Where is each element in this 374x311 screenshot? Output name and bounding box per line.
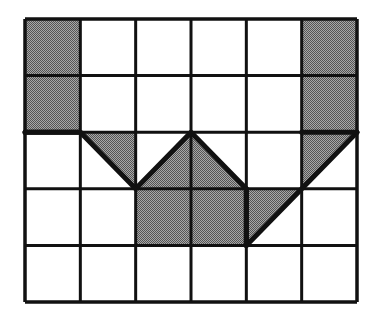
- grid-diagram: [0, 0, 374, 311]
- shaded-cell: [136, 189, 191, 246]
- shaded-cell: [191, 189, 246, 246]
- shaded-cell: [25, 19, 80, 76]
- shaded-cell: [25, 76, 80, 133]
- shaded-cell: [302, 76, 357, 133]
- shaded-cell: [302, 19, 357, 76]
